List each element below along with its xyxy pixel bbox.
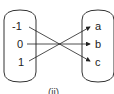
codomain-label-a: a	[95, 20, 101, 32]
diagram-caption: (ii)	[48, 87, 59, 94]
domain-label-1: 1	[18, 56, 24, 68]
codomain-label-b: b	[95, 38, 101, 50]
codomain-label-c: c	[95, 56, 101, 68]
domain-label-0: 0	[17, 38, 23, 50]
domain-label-neg1: -1	[12, 20, 22, 32]
